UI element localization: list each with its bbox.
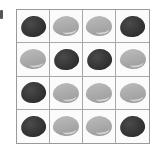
dark-stone-icon [85, 47, 113, 71]
grid-cell [17, 110, 50, 143]
dark-stone-icon [19, 114, 47, 138]
light-shell-icon [19, 48, 47, 71]
grid-cell [116, 10, 149, 43]
dark-stone-icon [119, 114, 147, 138]
grid-cell [17, 77, 50, 110]
grid-cell [50, 77, 83, 110]
light-shell-icon [119, 48, 147, 71]
light-shell-icon [119, 81, 147, 104]
dark-stone-icon [52, 47, 80, 71]
grid-cell [83, 10, 116, 43]
dark-stone-icon [119, 14, 147, 38]
light-shell-icon [85, 115, 113, 138]
light-shell-icon [85, 15, 113, 38]
grid-cell [17, 43, 50, 76]
grid-cell [50, 10, 83, 43]
dark-stone-icon [19, 80, 47, 104]
pattern-grid [16, 9, 150, 144]
light-shell-icon [52, 15, 80, 38]
grid-cell [116, 77, 149, 110]
light-shell-icon [52, 81, 80, 104]
light-shell-icon [52, 115, 80, 138]
light-shell-icon [85, 81, 113, 104]
dark-stone-icon [19, 14, 47, 38]
grid-cell [83, 110, 116, 143]
grid-cell [116, 43, 149, 76]
grid-cell [83, 77, 116, 110]
grid-cell [50, 110, 83, 143]
grid-cell [50, 43, 83, 76]
grid-cell [83, 43, 116, 76]
figure-label-mark [0, 10, 3, 19]
grid-cell [17, 10, 50, 43]
grid-cell [116, 110, 149, 143]
